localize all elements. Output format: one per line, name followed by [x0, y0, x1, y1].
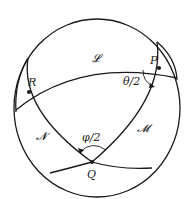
label-M: 𝓜: [137, 122, 153, 135]
label-Q: Q: [87, 168, 96, 181]
curve-M: [50, 42, 158, 173]
sphere-diagram: P R Q 𝓛 𝓜 𝓝 θ/2 φ/2: [0, 0, 191, 199]
edge-arc-left: [16, 58, 28, 112]
label-P: P: [149, 54, 158, 67]
label-L: 𝓛: [92, 52, 103, 65]
label-phi: φ/2: [82, 131, 100, 144]
curve-L: [16, 72, 177, 110]
angle-arc-theta: [143, 70, 153, 86]
label-R: R: [27, 76, 36, 89]
point-P: [157, 66, 161, 70]
label-theta: θ/2: [123, 75, 140, 88]
point-Q: [90, 160, 94, 164]
angle-arc-phi: [80, 145, 106, 152]
label-N: 𝓝: [36, 130, 50, 143]
point-R: [27, 90, 31, 94]
